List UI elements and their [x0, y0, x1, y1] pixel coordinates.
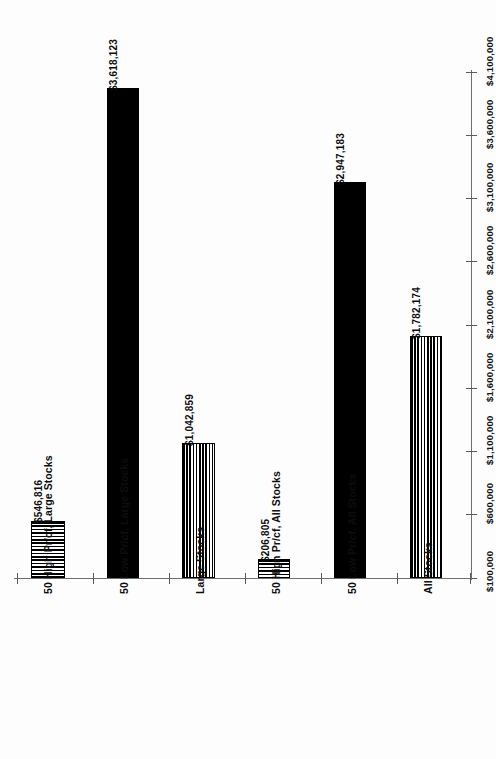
bar-value-label: $1,782,174: [411, 287, 422, 339]
value-axis-tick: [466, 261, 477, 262]
value-axis-tick-label: $3,100,000: [484, 162, 495, 212]
category-axis-tick: [321, 573, 322, 584]
value-axis-tick: [466, 514, 477, 515]
category-label: 50 Low Pr/cf, Large Stocks: [118, 458, 130, 594]
category-label: 50 Low Pr/cf, All Stocks: [346, 474, 358, 594]
bar-value-label: $1,042,859: [184, 394, 195, 446]
value-axis-tick-label: $1,100,000: [484, 415, 495, 465]
category-axis-line: [14, 578, 472, 579]
bar-value-label: $3,618,123: [108, 39, 119, 91]
value-axis-tick: [466, 135, 477, 136]
value-axis-tick: [466, 451, 477, 452]
value-axis-tick: [466, 388, 477, 389]
category-label: Large Stocks: [194, 527, 206, 594]
category-axis-tick: [17, 573, 18, 584]
value-axis-tick-label: $2,600,000: [484, 225, 495, 275]
category-axis-tick: [93, 573, 94, 584]
bar-value-label: $2,947,183: [335, 133, 346, 185]
value-axis-tick-label: $2,100,000: [484, 289, 495, 339]
category-axis-tick: [245, 573, 246, 584]
value-axis-tick: [466, 198, 477, 199]
category-label: 50 High Pr/cf, Large Stocks: [42, 455, 54, 594]
value-axis-tick-label: $600,000: [484, 483, 495, 524]
value-axis-tick-label: $4,100,000: [484, 36, 495, 86]
category-axis-tick: [397, 573, 398, 584]
bar-chart: $4,100,000 $3,600,000 $3,100,000 $2,600,…: [0, 0, 496, 759]
category-axis-tick: [470, 573, 471, 584]
value-axis-tick-label: $3,600,000: [484, 99, 495, 149]
value-axis-tick-label: $1,600,000: [484, 352, 495, 402]
value-axis-tick: [466, 72, 477, 73]
category-label: 50 High Pr/cf, All Stocks: [270, 471, 282, 594]
value-axis-tick-label: $100,000: [484, 551, 495, 592]
category-label: All Stocks: [422, 542, 434, 594]
value-axis-tick: [466, 325, 477, 326]
category-axis-tick: [169, 573, 170, 584]
